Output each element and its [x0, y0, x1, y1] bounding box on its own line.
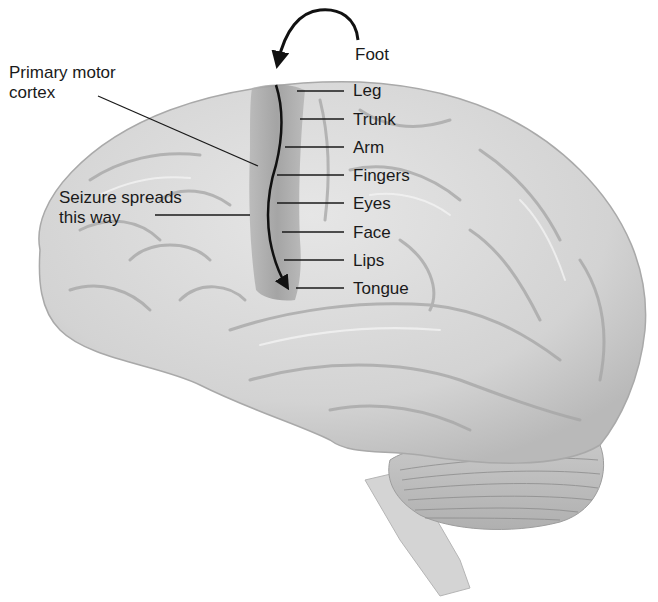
cerebrum: [39, 82, 646, 463]
foot-arrow: [278, 10, 358, 62]
body-label-face: Face: [353, 223, 391, 243]
body-label-arm: Arm: [353, 138, 384, 158]
primary-motor-cortex-label: Primary motor cortex: [9, 63, 116, 103]
body-label-fingers: Fingers: [353, 166, 410, 186]
body-label-eyes: Eyes: [353, 194, 391, 214]
body-label-lips: Lips: [353, 251, 384, 271]
body-label-leg: Leg: [353, 81, 381, 101]
body-label-tongue: Tongue: [353, 279, 409, 299]
body-label-foot: Foot: [355, 45, 389, 65]
seizure-spreads-label: Seizure spreads this way: [59, 188, 182, 228]
body-label-trunk: Trunk: [353, 110, 396, 130]
